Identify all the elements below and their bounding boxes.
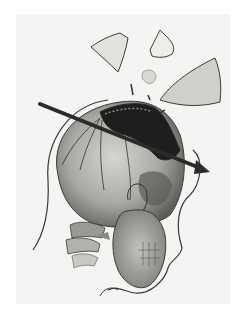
cervical-vertebrae [66,222,110,268]
illustration-canvas [16,14,230,304]
fragment-5 [131,84,133,95]
fragment-2 [150,30,174,57]
fragment-1 [91,33,128,72]
fragment-4 [142,70,156,84]
fragment-6 [148,95,150,100]
bone-fragments [91,30,221,113]
skull-illustration [16,14,230,304]
mandible [113,210,166,288]
fragment-3 [160,58,221,106]
